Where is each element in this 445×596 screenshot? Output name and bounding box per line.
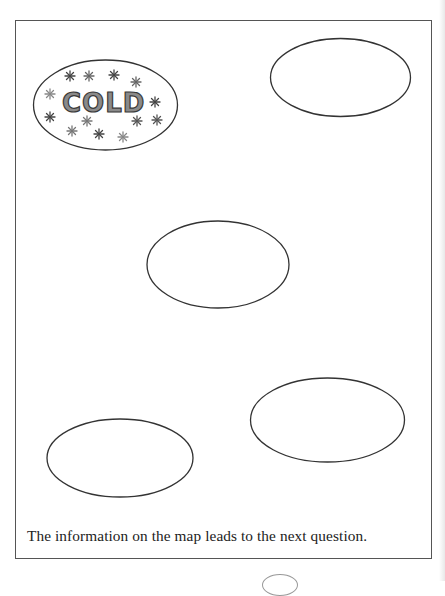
lower-left-oval	[47, 419, 193, 497]
snowflake-icon	[84, 71, 94, 81]
snowflake-icon	[150, 97, 160, 107]
top-right-oval	[271, 39, 411, 117]
snowflake-icon	[118, 132, 128, 142]
snowflake-icon	[45, 112, 55, 122]
map-caption: The information on the map leads to the …	[27, 527, 367, 545]
cold-label: COLD	[62, 86, 140, 120]
lower-right-oval	[251, 378, 405, 462]
snowflake-icon	[109, 70, 119, 80]
page-number-circle	[262, 574, 298, 596]
snowflake-icon	[65, 71, 75, 81]
snowflake-icon	[67, 126, 77, 136]
middle-oval	[147, 221, 289, 308]
snowflake-icon	[152, 115, 162, 125]
snowflake-icon	[94, 129, 104, 139]
snowflake-icon	[45, 89, 55, 99]
